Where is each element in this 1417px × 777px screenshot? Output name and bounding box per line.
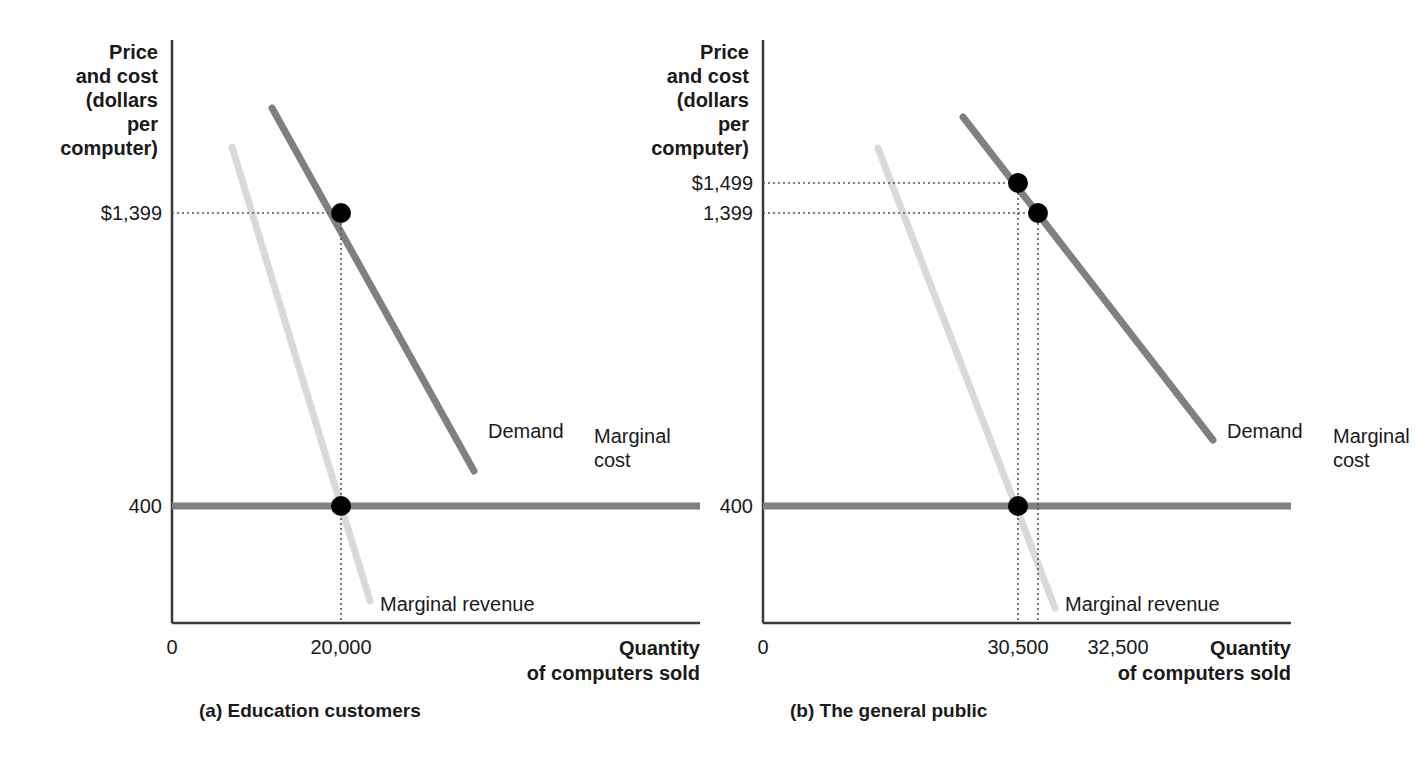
y-tick-price-low: 1,399	[591, 202, 753, 225]
panel-a-caption: (a) Education customers	[199, 700, 421, 722]
y-tick-price-high: $1,499	[591, 172, 753, 195]
demand-curve-label: Demand	[488, 419, 564, 443]
mr-equals-mc-point	[331, 496, 351, 516]
profit-maximizing-point	[331, 203, 351, 223]
y-tick-marginal-cost: 400	[0, 495, 162, 518]
y-axis-title: Price and cost (dollars per computer)	[601, 40, 749, 160]
y-tick-price: $1,399	[0, 202, 162, 225]
demand-curve	[272, 108, 474, 471]
demand-curve-label: Demand	[1227, 419, 1303, 443]
marginal-revenue-curve-label: Marginal revenue	[380, 592, 535, 616]
price-discrimination-figure: Price and cost (dollars per computer) $1…	[0, 0, 1417, 777]
panel-b-caption: (b) The general public	[790, 700, 987, 722]
y-axis-title: Price and cost (dollars per computer)	[10, 40, 158, 160]
x-tick-quantity: 20,000	[281, 636, 401, 659]
price-point-high	[1008, 173, 1028, 193]
x-origin-label: 0	[739, 636, 787, 659]
x-axis-title: Quantity of computers sold	[1011, 636, 1291, 686]
marginal-cost-curve-label: Marginal cost	[1333, 424, 1410, 472]
y-tick-marginal-cost: 400	[591, 495, 753, 518]
demand-curve	[963, 117, 1213, 440]
mr-equals-mc-point	[1008, 496, 1028, 516]
price-point-low	[1028, 203, 1048, 223]
marginal-revenue-curve-label: Marginal revenue	[1065, 592, 1220, 616]
marginal-revenue-curve	[878, 148, 1055, 608]
panel-general-public: Price and cost (dollars per computer) $1…	[591, 0, 1299, 777]
x-origin-label: 0	[148, 636, 196, 659]
